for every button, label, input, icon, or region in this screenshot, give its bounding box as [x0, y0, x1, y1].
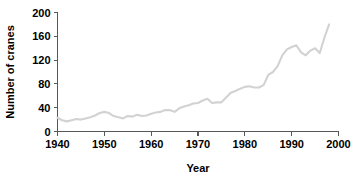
x-axis-tick-labels: 1940195019601970198019902000 [45, 138, 350, 150]
x-tick-label: 1950 [92, 138, 116, 150]
y-tick-label: 200 [32, 7, 50, 19]
y-tick-label: 80 [38, 78, 50, 90]
chart-canvas: 04080120160200 1940195019601970198019902… [0, 0, 363, 183]
x-axis-ticks [58, 132, 339, 136]
y-tick-label: 0 [44, 126, 50, 138]
y-axis-group: 04080120160200 [32, 7, 57, 138]
x-axis-group: 1940195019601970198019902000 [45, 132, 350, 150]
y-tick-label: 160 [32, 30, 50, 42]
y-axis-title: Number of cranes [4, 25, 16, 119]
crane-population-chart: 04080120160200 1940195019601970198019902… [0, 0, 363, 183]
x-axis-title: Year [186, 162, 210, 174]
x-tick-label: 1960 [139, 138, 163, 150]
y-axis-tick-labels: 04080120160200 [32, 7, 50, 138]
x-tick-label: 2000 [326, 138, 350, 150]
x-tick-label: 1980 [233, 138, 257, 150]
y-tick-label: 40 [38, 102, 50, 114]
data-series-line [58, 24, 330, 121]
x-tick-label: 1970 [186, 138, 210, 150]
x-tick-label: 1940 [45, 138, 69, 150]
x-tick-label: 1990 [279, 138, 303, 150]
y-tick-label: 120 [32, 54, 50, 66]
